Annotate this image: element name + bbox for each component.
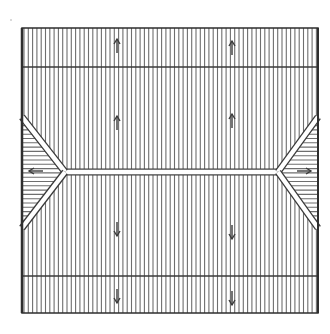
hip-roof-plan-diagram bbox=[0, 0, 330, 334]
ridge-fill bbox=[63, 170, 280, 175]
ridge-line bbox=[63, 169, 280, 176]
stray-mark bbox=[10, 19, 11, 20]
